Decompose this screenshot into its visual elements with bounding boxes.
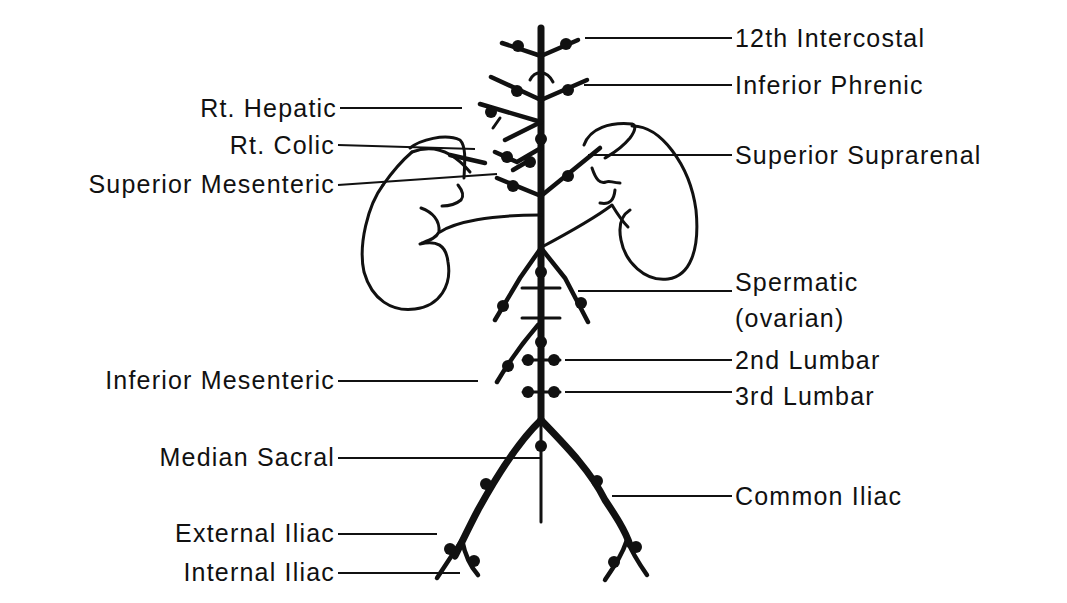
label-inferior-mesenteric: Inferior Mesenteric <box>105 366 335 394</box>
label-superior-suprarenal: Superior Suprarenal <box>735 141 982 169</box>
label-rt-colic: Rt. Colic <box>230 131 335 159</box>
label-superior-mesenteric: Superior Mesenteric <box>88 170 335 198</box>
label-12th-intercostal: 12th Intercostal <box>735 24 925 52</box>
right-kidney-of-patient-left-side <box>362 137 540 309</box>
label-internal-iliac: Internal Iliac <box>183 558 335 586</box>
label-spermatic: Spermatic <box>735 268 858 296</box>
label-external-iliac: External Iliac <box>175 519 335 547</box>
label-inferior-phrenic: Inferior Phrenic <box>735 71 924 99</box>
aorta-branches-diagram: Rt. Hepatic Rt. Colic Superior Mesenteri… <box>0 0 1067 603</box>
label-3rd-lumbar: 3rd Lumbar <box>735 382 875 410</box>
labels-left: Rt. Hepatic Rt. Colic Superior Mesenteri… <box>88 94 337 586</box>
abdominal-aorta <box>437 28 647 580</box>
left-kidney-of-patient-right-side <box>540 124 697 280</box>
label-ovarian: (ovarian) <box>735 304 844 332</box>
label-rt-hepatic: Rt. Hepatic <box>200 94 337 122</box>
label-2nd-lumbar: 2nd Lumbar <box>735 346 880 374</box>
label-median-sacral: Median Sacral <box>160 443 335 471</box>
label-common-iliac: Common Iliac <box>735 482 902 510</box>
labels-right: 12th Intercostal Inferior Phrenic Superi… <box>735 24 982 510</box>
